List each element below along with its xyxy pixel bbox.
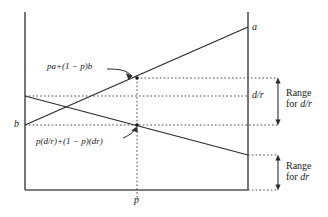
x-axis-label-p-text: p	[134, 194, 139, 205]
upper-intersection-marker	[135, 76, 139, 80]
range-upper-label-line1: Range	[286, 87, 312, 98]
x-axis-label-p: p	[134, 194, 139, 205]
upper-line-label: pa+(1 − p)b	[47, 61, 92, 71]
d-over-r-level-label-text: d/r	[252, 89, 264, 100]
range-lower-label-line2-prefix: for	[286, 171, 300, 182]
d-over-r-level-label: d/r	[252, 89, 264, 100]
lower-line-label: p(d/r)+(1 − p)(dr)	[36, 136, 103, 146]
range-lower-label-line2: for dr	[286, 171, 312, 182]
endpoint-label-b: b	[14, 118, 19, 129]
economics-line-diagram: pa+(1 − p)b p(d/r)+(1 − p)(dr) d/r a b p…	[0, 0, 328, 217]
endpoint-label-a: a	[252, 21, 257, 32]
ascending-line-pa-plus-1-minus-p-b	[25, 27, 248, 125]
lower-intersection-marker	[135, 123, 139, 127]
range-upper-label-line2-prefix: for	[286, 98, 300, 109]
range-upper-arrow-head-top	[275, 78, 280, 84]
range-lower-label-line2-value: dr	[300, 171, 309, 182]
endpoint-label-a-text: a	[252, 21, 257, 32]
range-lower-label-line1: Range	[286, 160, 312, 171]
lower-line-label-text: p(d/r)+(1 − p)(dr)	[36, 136, 103, 146]
upper-line-label-text: pa+(1 − p)b	[47, 61, 92, 71]
range-upper-label-line2-value: d/r	[300, 98, 312, 109]
lower-label-leader-arrowhead	[132, 127, 138, 132]
range-lower-label: Range for dr	[286, 160, 312, 182]
endpoint-label-b-text: b	[14, 118, 19, 129]
range-upper-label-line2: for d/r	[286, 98, 312, 109]
range-upper-label: Range for d/r	[286, 87, 312, 109]
diagram-canvas	[0, 0, 328, 217]
